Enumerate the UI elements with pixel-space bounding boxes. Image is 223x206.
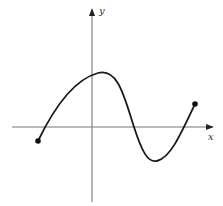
right-endpoint-dot (192, 101, 198, 107)
function-graph: y x (0, 0, 223, 206)
function-curve (38, 72, 195, 161)
y-axis-label: y (98, 5, 105, 16)
left-endpoint-dot (35, 138, 41, 144)
x-axis-label: x (208, 131, 214, 142)
